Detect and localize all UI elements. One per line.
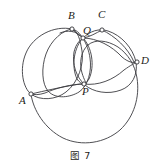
geometry-diagram <box>0 0 161 167</box>
arc-q-to-d <box>83 38 137 62</box>
chord-arc-b-c-upper <box>60 31 83 38</box>
point-marker-c <box>100 28 104 32</box>
point-label-d: D <box>141 55 149 66</box>
arc-c-to-d <box>102 30 137 62</box>
point-marker-q <box>81 36 85 40</box>
arc-a-to-p <box>31 84 84 94</box>
point-label-q: Q <box>83 25 91 36</box>
point-marker-a <box>29 92 33 96</box>
point-label-c: C <box>98 9 105 20</box>
figure-caption: 图 7 <box>0 148 161 162</box>
point-marker-b <box>70 27 74 31</box>
point-label-b: B <box>68 10 75 21</box>
figure-container: A B C D P Q 图 7 <box>0 0 161 167</box>
point-label-p: P <box>82 86 89 97</box>
point-label-a: A <box>19 95 26 106</box>
point-marker-d <box>135 60 139 64</box>
